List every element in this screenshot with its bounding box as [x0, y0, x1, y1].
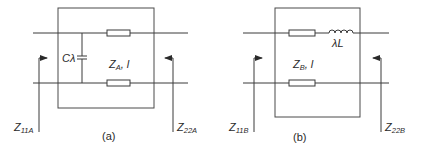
panel-b: λL ZB, l Z11B Z22B (b) — [228, 8, 405, 143]
inductor-label: λL — [331, 37, 344, 49]
capacitor-icon — [77, 33, 87, 83]
port-impedance-z11a: Z11A — [13, 121, 34, 135]
caption-a: (a) — [102, 130, 115, 142]
resistor-icon — [107, 30, 130, 36]
caption-b: (b) — [293, 131, 306, 143]
line-impedance-label-b: ZB, l — [292, 58, 314, 72]
arrow-right-icon — [39, 58, 47, 132]
arrow-right-icon — [254, 58, 262, 132]
inductor-icon — [329, 30, 353, 33]
arrow-left-icon — [165, 58, 173, 132]
port-impedance-z11b: Z11B — [228, 121, 249, 135]
circuit-diagram: Cλ ZA, l Z11A Z22A (a) λL ZB, l — [0, 0, 424, 154]
arrow-left-icon — [373, 58, 381, 132]
resistor-icon — [289, 80, 315, 86]
line-impedance-label-a: ZA, l — [108, 58, 130, 72]
capacitor-label: Cλ — [62, 52, 75, 64]
port-impedance-z22b: Z22B — [384, 121, 405, 135]
panel-a: Cλ ZA, l Z11A Z22A (a) — [13, 8, 197, 142]
resistor-icon — [289, 30, 315, 36]
port-impedance-z22a: Z22A — [176, 121, 197, 135]
resistor-icon — [107, 80, 130, 86]
network-box-b — [275, 8, 360, 117]
